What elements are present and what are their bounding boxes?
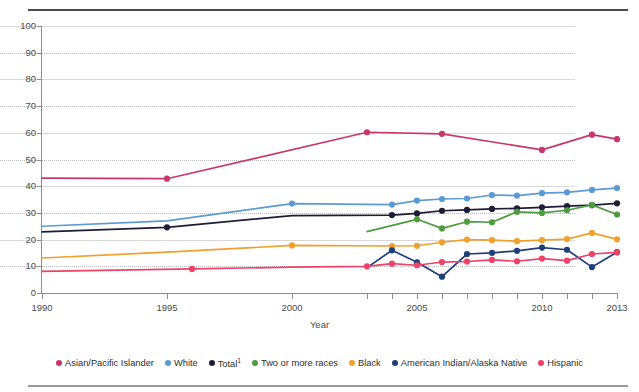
legend-item-label: American Indian/Alaska Native — [401, 358, 528, 368]
data-point — [589, 251, 595, 257]
series-line — [42, 252, 617, 271]
legend-swatch-icon — [349, 360, 355, 366]
gridline — [0, 79, 575, 80]
series-white — [42, 185, 620, 226]
y-tick-label: 30 — [10, 208, 36, 218]
data-point — [489, 257, 495, 263]
data-point — [614, 249, 620, 255]
x-tick-mark — [392, 294, 393, 299]
legend-item[interactable]: Hispanic — [538, 358, 583, 368]
y-tick-label: 90 — [10, 48, 36, 58]
data-point — [164, 176, 170, 182]
y-tick-label: 0 — [10, 288, 36, 298]
series-total — [42, 200, 620, 232]
bottom-rule — [28, 385, 628, 387]
data-point — [539, 190, 545, 196]
data-point — [464, 219, 470, 225]
x-tick-mark — [467, 294, 468, 299]
data-point — [414, 243, 420, 249]
x-tick-mark — [442, 294, 443, 299]
data-point — [539, 255, 545, 261]
series-asian-pacific-islander — [42, 129, 620, 182]
data-point — [489, 250, 495, 256]
data-point — [539, 147, 545, 153]
legend-item[interactable]: Asian/Pacific Islander — [56, 358, 154, 368]
y-axis-line — [41, 26, 42, 294]
x-tick-mark — [517, 294, 518, 299]
legend-swatch-icon — [252, 360, 258, 366]
legend-item[interactable]: White — [165, 358, 198, 368]
data-point — [514, 192, 520, 198]
legend-swatch-icon — [538, 360, 544, 366]
data-point — [289, 200, 295, 206]
gridline — [0, 160, 575, 161]
x-tick-mark — [42, 294, 43, 299]
data-point — [514, 205, 520, 211]
series-hispanic — [42, 249, 620, 272]
gridline — [0, 53, 575, 54]
x-tick-mark — [417, 294, 418, 299]
x-tick-mark — [167, 294, 168, 299]
series-american-indian-alaska-native — [367, 245, 620, 280]
data-point — [389, 202, 395, 208]
data-point — [539, 245, 545, 251]
legend-item[interactable]: Total1 — [209, 357, 241, 369]
data-point — [564, 189, 570, 195]
top-rule — [28, 9, 628, 11]
data-point — [564, 203, 570, 209]
y-tick-label: 100 — [10, 21, 36, 31]
series-line — [42, 203, 617, 232]
legend-item[interactable]: American Indian/Alaska Native — [392, 358, 528, 368]
x-tick-label: 2013 — [597, 302, 637, 313]
gridline — [0, 266, 575, 267]
data-point — [439, 274, 445, 280]
x-tick-label: 1995 — [147, 302, 187, 313]
data-point — [514, 209, 520, 215]
gridline — [0, 133, 575, 134]
data-point — [414, 259, 420, 265]
x-tick-mark — [592, 294, 593, 299]
legend-swatch-icon — [165, 360, 171, 366]
data-point — [589, 202, 595, 208]
series-line — [367, 248, 617, 277]
legend-item-label: Total1 — [218, 357, 241, 369]
data-point — [614, 185, 620, 191]
data-point — [589, 132, 595, 138]
x-tick-mark — [292, 294, 293, 299]
data-point — [589, 264, 595, 270]
chart-page: 0102030405060708090100 19901995200020052… — [0, 0, 639, 392]
series-black — [42, 230, 620, 258]
data-point — [439, 196, 445, 202]
x-tick-label: 2010 — [522, 302, 562, 313]
data-point — [514, 248, 520, 254]
data-point — [439, 225, 445, 231]
y-tick-label: 70 — [10, 101, 36, 111]
data-point — [614, 236, 620, 242]
legend-item-label: White — [174, 358, 198, 368]
gridline — [0, 213, 575, 214]
data-point — [439, 259, 445, 265]
legend-footnote-marker: 1 — [237, 357, 241, 364]
legend-item[interactable]: Two or more races — [252, 358, 338, 368]
legend-item[interactable]: Black — [349, 358, 381, 368]
series-line — [42, 132, 617, 178]
data-point — [489, 206, 495, 212]
y-tick-label: 20 — [10, 235, 36, 245]
x-tick-label: 1990 — [22, 302, 62, 313]
series-plot — [0, 0, 639, 392]
data-point — [464, 195, 470, 201]
data-point — [289, 242, 295, 248]
legend-item-label: Asian/Pacific Islander — [65, 358, 154, 368]
legend-swatch-icon — [209, 360, 215, 366]
legend-swatch-icon — [56, 360, 62, 366]
data-point — [414, 216, 420, 222]
data-point — [564, 247, 570, 253]
y-tick-label: 10 — [10, 261, 36, 271]
data-point — [489, 192, 495, 198]
x-tick-mark — [492, 294, 493, 299]
series-line — [42, 188, 617, 226]
data-point — [614, 200, 620, 206]
data-point — [614, 249, 620, 255]
data-point — [514, 258, 520, 264]
data-point — [564, 258, 570, 264]
